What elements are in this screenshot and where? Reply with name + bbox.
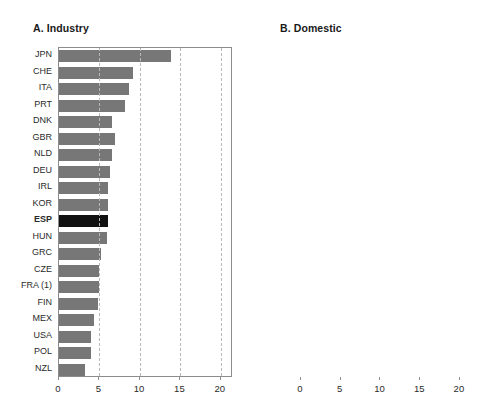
category-label-PRT: PRT [34,100,52,109]
category-label-KOR: KOR [32,199,52,208]
bar-segment-FRA1-price [59,281,99,293]
category-label-FRA1: FRA (1) [21,281,52,290]
x-tick-mark-5 [98,377,99,380]
bar-row [59,182,231,194]
bar-row [59,298,231,310]
category-label-GRC: GRC [32,248,52,257]
bar-row [59,149,231,161]
category-label-MEX: MEX [32,314,52,323]
x-tick-mark-5 [340,377,341,380]
panel-a-plot-area [58,47,232,377]
x-tick-mark-20 [459,377,460,380]
x-tick-mark-20 [220,377,221,380]
bar-segment-FIN-price [59,298,98,310]
category-label-JPN: JPN [35,50,52,59]
bar-row [59,67,231,79]
bar-segment-GBR-price [59,133,115,145]
x-tick-label-10: 10 [134,383,145,394]
x-tick-label-20: 20 [215,383,226,394]
bar-segment-CZE-price [59,265,99,277]
category-label-IRL: IRL [38,182,52,191]
category-label-ITA: ITA [39,83,52,92]
bar-row [59,347,231,359]
bar-row [59,248,231,260]
panel-industry: A. Industry JPNCHEITAPRTDNKGBRNLDDEUIRLK… [0,0,250,412]
gridline-10 [140,48,141,376]
x-tick-mark-10 [379,377,380,380]
bar-row [59,100,231,112]
bar-segment-MEX-price [59,314,94,326]
x-tick-label-15: 15 [414,383,425,394]
category-label-NZL: NZL [35,364,52,373]
bar-segment-DNK-price [59,116,112,128]
x-tick-mark-15 [419,377,420,380]
bar-row [59,364,231,376]
x-tick-mark-10 [139,377,140,380]
category-label-POL: POL [34,347,52,356]
bar-segment-CHE-price [59,67,133,79]
bar-segment-POL-price [59,347,91,359]
panel-a-bars [59,48,231,376]
category-label-FIN: FIN [38,298,53,307]
bar-segment-USA-price [59,331,91,343]
x-tick-label-0: 0 [297,383,302,394]
x-tick-label-20: 20 [454,383,465,394]
bar-segment-NLD-price [59,149,112,161]
x-tick-label-0: 0 [55,383,60,394]
bar-segment-JPN-price [59,50,171,62]
panel-domestic: B. Domestic JPNDNKDEUITAESPPRTNLDCHEFRA … [250,0,500,412]
bar-row [59,166,231,178]
bar-row [59,314,231,326]
category-label-GBR: GBR [32,133,52,142]
bar-row [59,50,231,62]
x-tick-label-10: 10 [374,383,385,394]
category-label-NLD: NLD [34,149,52,158]
x-tick-label-15: 15 [174,383,185,394]
panel-a-title: A. Industry [33,22,89,34]
bar-row [59,133,231,145]
x-tick-label-5: 5 [337,383,342,394]
category-label-CHE: CHE [33,67,52,76]
bar-row [59,232,231,244]
x-tick-mark-0 [58,377,59,380]
bar-row [59,83,231,95]
bar-segment-PRT-price [59,100,125,112]
bar-row [59,116,231,128]
bar-row [59,331,231,343]
bar-segment-ITA-price [59,83,129,95]
category-label-USA: USA [33,331,52,340]
bar-row [59,281,231,293]
category-label-CZE: CZE [34,265,52,274]
x-tick-label-5: 5 [96,383,101,394]
bar-row [59,199,231,211]
figure-root: A. Industry JPNCHEITAPRTDNKGBRNLDDEUIRLK… [0,0,500,412]
category-label-ESP: ESP [34,215,52,224]
bar-segment-DEU-price [59,166,110,178]
category-label-DNK: DNK [33,116,52,125]
gridline-5 [99,48,100,376]
x-tick-mark-15 [179,377,180,380]
x-tick-mark-0 [300,377,301,380]
bar-segment-NZL-price [59,364,85,376]
bar-segment-GRC-price [59,248,101,260]
bar-row [59,215,231,227]
category-label-DEU: DEU [33,166,52,175]
category-label-HUN: HUN [33,232,53,241]
bar-row [59,265,231,277]
panel-b-title: B. Domestic [280,22,342,34]
gridline-15 [180,48,181,376]
gridline-20 [221,48,222,376]
